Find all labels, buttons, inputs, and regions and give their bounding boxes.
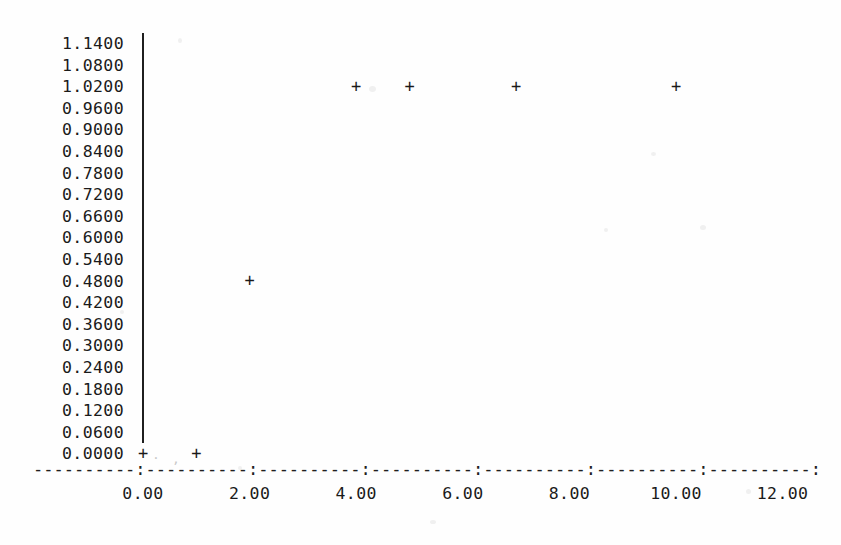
- x-axis-tick-label: 0.00: [122, 484, 163, 504]
- x-axis-tick-label: 12.00: [757, 484, 809, 504]
- x-axis-tick-label: 4.00: [336, 484, 377, 504]
- x-axis-labels: 0.002.004.006.008.0010.0012.00: [0, 484, 841, 508]
- chart-page: 1.14001.08001.02000.96000.90000.84000.78…: [0, 0, 841, 545]
- data-point-marker: [671, 82, 682, 93]
- data-point-marker: [404, 82, 415, 93]
- x-axis-line: ----------:----------:----------:-------…: [33, 461, 821, 478]
- data-point-marker: [511, 82, 522, 93]
- data-point-marker: [351, 82, 362, 93]
- x-axis-tick-label: 10.00: [650, 484, 702, 504]
- x-axis-tick-label: 6.00: [442, 484, 483, 504]
- plot-area: [0, 0, 841, 470]
- scan-speckle: [430, 520, 436, 524]
- data-point-marker: [244, 276, 255, 287]
- x-axis-tick-label: 2.00: [229, 484, 270, 504]
- x-axis-tick-label: 8.00: [549, 484, 590, 504]
